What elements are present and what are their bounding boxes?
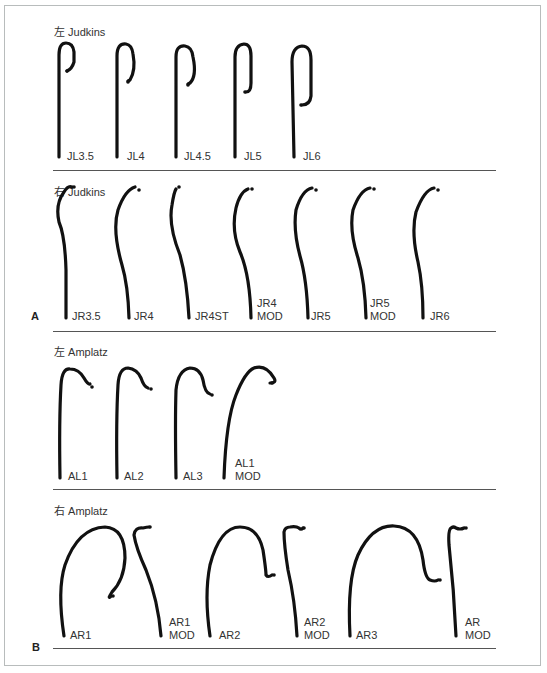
catheter-jl4 [117,44,134,157]
label-jr5-mod-line1: JR5 [370,296,390,310]
catheter-al2 [117,368,153,478]
label-jl6: JL6 [303,149,321,163]
catheter-al3 [176,368,214,478]
catheter-ar2 [207,527,276,636]
catheter-ar2-mod [284,526,306,636]
label-jr4-mod-line2: MOD [257,309,283,323]
catheter-jr4 [116,187,141,318]
catheter-jr6 [414,188,440,318]
catheter-jl6 [292,46,311,157]
catheter-jr5 [295,188,318,318]
label-al1: AL1 [68,469,88,483]
catheter-jr3.5 [58,185,76,318]
catheter-al1 [60,369,94,478]
catheter-ar1-mod [134,525,161,636]
label-jr6: JR6 [430,309,450,323]
label-jr5: JR5 [311,309,331,323]
label-al2: AL2 [124,469,144,483]
label-ar-mod-line1: AR [465,615,480,629]
label-jr4: JR4 [134,309,154,323]
label-al3: AL3 [183,469,203,483]
label-ar3: AR3 [356,628,377,642]
label-jr4st: JR4ST [195,309,229,323]
label-ar-mod-line2: MOD [465,628,491,642]
catheter-jl5 [235,44,251,157]
catheter-jr4st [171,185,189,318]
label-ar2-mod-line1: AR2 [304,615,325,629]
catheter-ar1 [61,527,125,636]
label-jr3.5: JR3.5 [72,309,101,323]
label-al1-mod-line1: AL1 [235,456,255,470]
label-jr4-mod-line1: JR4 [257,296,277,310]
label-jl3.5: JL3.5 [67,149,94,163]
label-jl5: JL5 [244,149,262,163]
label-jr5-mod-line2: MOD [370,309,396,323]
catheter-jr4-mod [234,187,254,318]
label-ar1-mod-line1: AR1 [169,615,190,629]
label-jl4: JL4 [127,149,145,163]
label-ar2: AR2 [219,628,240,642]
label-jl4.5: JL4.5 [184,149,211,163]
catheter-jl4.5 [176,46,194,157]
catheter-diagram [0,0,547,673]
label-ar1: AR1 [70,628,91,642]
label-ar1-mod-line2: MOD [169,628,195,642]
label-al1-mod-line2: MOD [235,469,261,483]
catheter-ar3 [349,526,441,636]
catheter-jl3.5 [59,43,74,157]
label-ar2-mod-line2: MOD [304,628,330,642]
